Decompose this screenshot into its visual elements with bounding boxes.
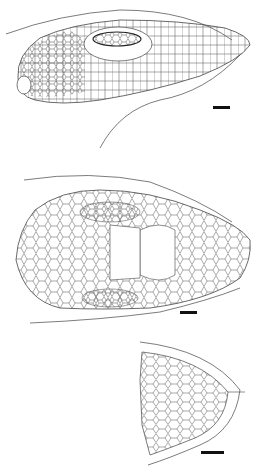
dorsal-head-panel (0, 160, 261, 330)
scale-bar-dorsal (180, 311, 197, 314)
dorsal-head-drawing (0, 160, 261, 330)
lateral-head-drawing (0, 0, 261, 160)
scale-bar-lateral (213, 106, 230, 109)
lateral-head-panel (0, 0, 261, 160)
scale-bar-ventral (201, 451, 224, 454)
ventral-snout-panel (0, 330, 261, 471)
ventral-snout-drawing (0, 330, 261, 471)
